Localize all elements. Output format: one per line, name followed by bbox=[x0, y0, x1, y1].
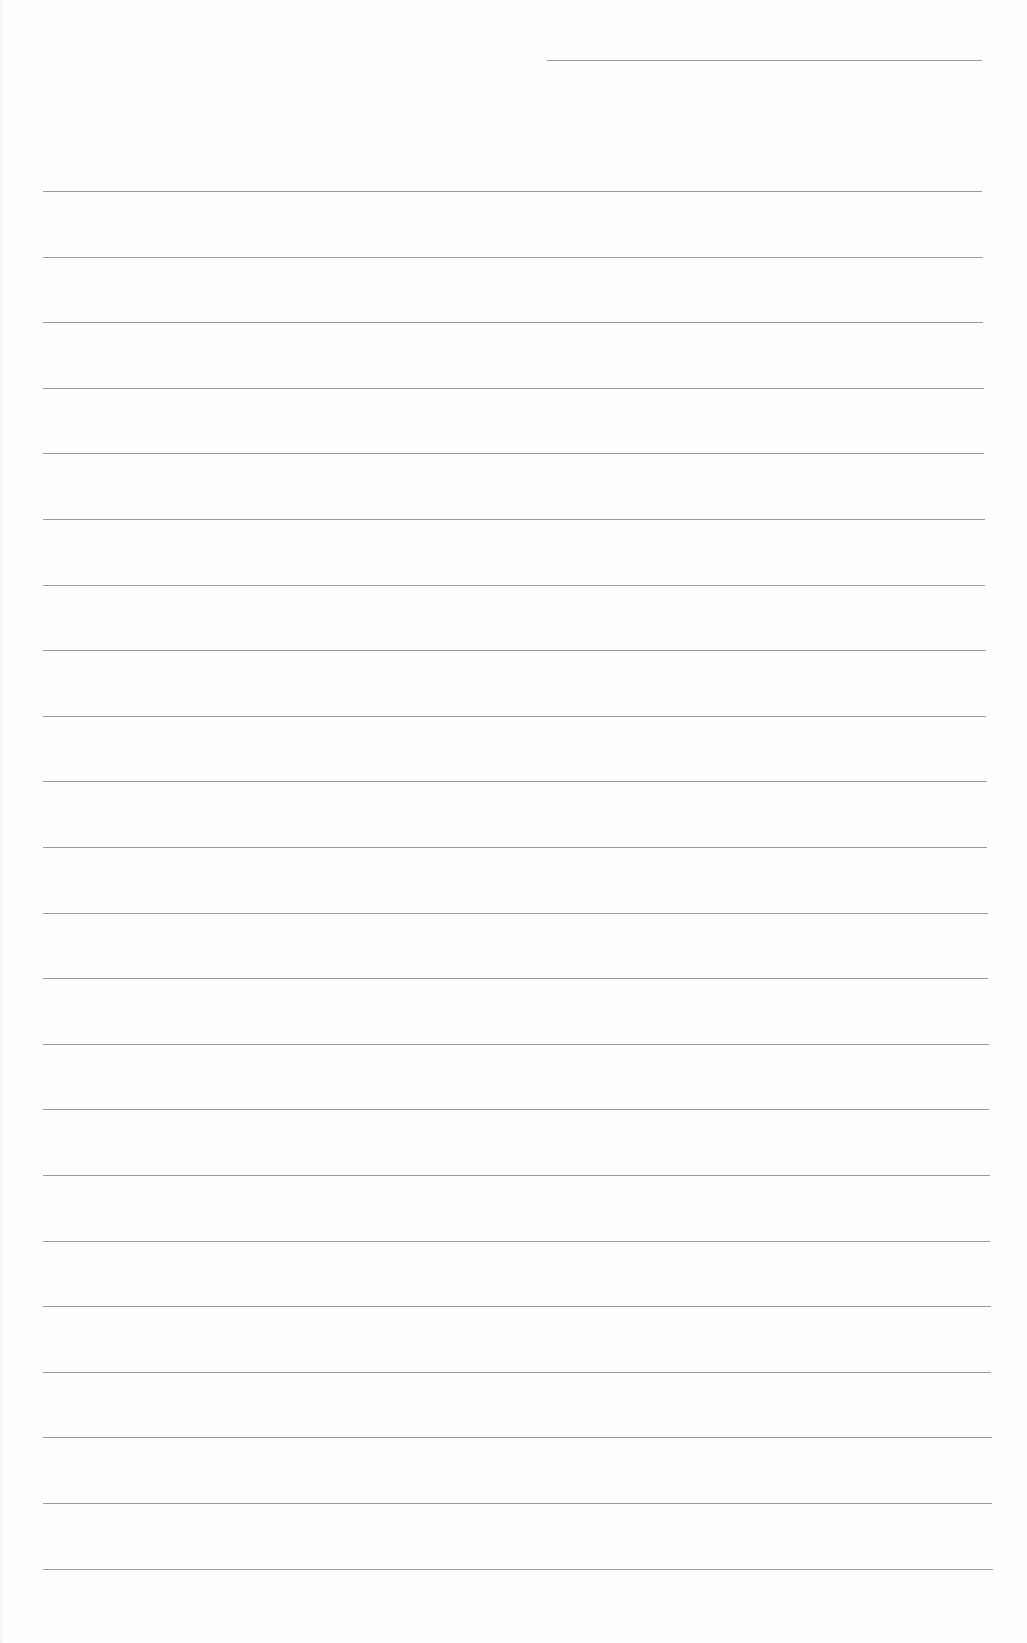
ruled-line bbox=[43, 1044, 989, 1045]
ruled-line bbox=[43, 1569, 993, 1570]
ruled-line bbox=[43, 453, 984, 454]
ruled-line bbox=[43, 1175, 990, 1176]
ruled-line bbox=[43, 519, 985, 520]
ruled-line bbox=[43, 257, 983, 258]
ruled-line bbox=[43, 191, 982, 192]
header-line bbox=[547, 60, 982, 61]
ruled-line bbox=[43, 913, 988, 914]
ruled-line bbox=[43, 322, 983, 323]
ruled-line bbox=[43, 847, 987, 848]
ruled-line bbox=[43, 388, 984, 389]
ruled-line bbox=[43, 978, 988, 979]
ruled-line bbox=[43, 650, 986, 651]
ruled-line bbox=[43, 1437, 992, 1438]
ruled-line bbox=[43, 781, 987, 782]
ruled-line bbox=[43, 585, 985, 586]
ruled-line bbox=[43, 1109, 989, 1110]
ruled-line bbox=[43, 1372, 991, 1373]
lined-paper-page bbox=[0, 0, 1027, 1643]
ruled-line bbox=[43, 1241, 990, 1242]
ruled-line bbox=[43, 716, 986, 717]
page-edge-shadow bbox=[0, 0, 4, 1643]
ruled-line bbox=[43, 1503, 992, 1504]
ruled-line bbox=[43, 1306, 991, 1307]
